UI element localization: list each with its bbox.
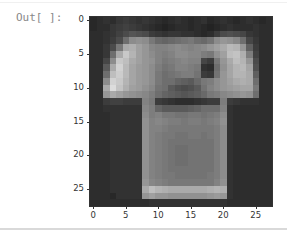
x-tick-mark [126,206,127,209]
y-tick-mark [87,54,90,55]
pixel [266,179,273,186]
pixel [266,31,273,38]
y-tick-label: 10 [64,82,84,92]
pixel [266,118,273,125]
pixel [266,172,273,179]
y-tick-label: 5 [64,48,84,58]
pixel [266,24,273,31]
y-tick-label: 0 [64,14,84,24]
output-prompt: Out[ ]: [16,11,62,24]
pixel [266,193,273,200]
y-tick-label: 20 [64,149,84,159]
y-tick-mark [87,155,90,156]
x-tick-mark [158,206,159,209]
pixel [266,85,273,92]
pixel [266,58,273,65]
y-tick-mark [87,20,90,21]
x-tick-label: 20 [213,210,233,220]
x-tick-mark [223,206,224,209]
pixel [266,132,273,139]
x-tick-mark [256,206,257,209]
pixel [266,125,273,132]
pixel [266,91,273,98]
cell-bottom-border [0,228,287,230]
pixel [266,44,273,51]
pixel [266,37,273,44]
pixel [266,139,273,146]
pixel [266,51,273,58]
image-heatmap [90,17,272,206]
x-tick-label: 0 [83,210,103,220]
pixel [266,159,273,166]
pixel [266,78,273,85]
y-tick-label: 25 [64,183,84,193]
y-tick-mark [87,88,90,89]
pixel [266,186,273,193]
pixel [266,17,273,24]
x-tick-mark [93,206,94,209]
y-tick-label: 15 [64,116,84,126]
x-tick-label: 5 [116,210,136,220]
x-tick-label: 15 [181,210,201,220]
x-tick-label: 10 [148,210,168,220]
pixel [266,199,273,206]
x-tick-label: 25 [246,210,266,220]
pixel [266,98,273,105]
cell-top-border [0,2,287,3]
pixel [266,112,273,119]
pixel [266,166,273,173]
y-tick-mark [87,189,90,190]
pixel [266,105,273,112]
pixel [266,71,273,78]
x-tick-mark [191,206,192,209]
pixel [266,152,273,159]
pixel [266,64,273,71]
y-tick-mark [87,122,90,123]
pixel [266,145,273,152]
